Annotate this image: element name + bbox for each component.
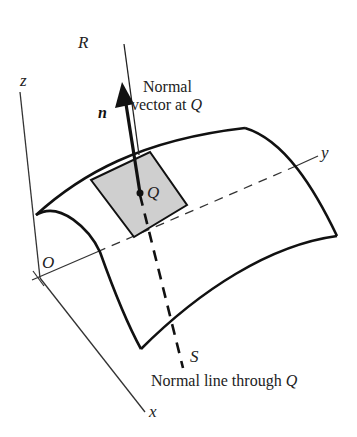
label-origin: O xyxy=(42,253,54,272)
label-z: z xyxy=(19,71,27,90)
surface-front-right-edge xyxy=(141,236,337,349)
label-x: x xyxy=(148,402,157,421)
caption-normal-vector-line2: vector at Q xyxy=(131,96,203,113)
label-n-vector: n xyxy=(98,104,107,121)
caption-normal-vector-point: Q xyxy=(191,96,203,113)
surface-normal-diagram: R z y O x Q S n Normal vector at Q Norma… xyxy=(0,0,357,437)
label-q: Q xyxy=(147,183,159,202)
surface-left-front-edge xyxy=(36,211,141,349)
caption-normal-line-point: Q xyxy=(286,372,298,389)
y-axis-solid-far xyxy=(296,156,318,166)
caption-normal-line: Normal line through Q xyxy=(151,372,298,390)
label-y: y xyxy=(319,143,329,162)
label-r: R xyxy=(77,33,89,52)
point-q-dot xyxy=(137,190,144,197)
label-s: S xyxy=(190,347,199,366)
caption-normal-vector-prefix: vector at xyxy=(131,96,191,113)
x-axis xyxy=(40,278,145,412)
z-axis xyxy=(20,92,40,278)
caption-normal-vector-line1: Normal xyxy=(143,78,192,95)
caption-normal-line-prefix: Normal line through xyxy=(151,372,286,390)
